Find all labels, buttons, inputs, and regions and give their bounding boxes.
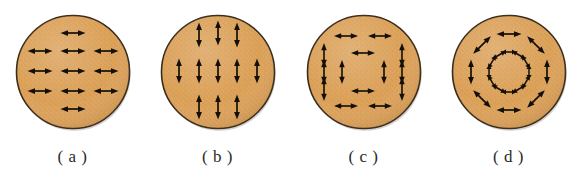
disc-d [450, 11, 568, 131]
disc-b-svg [159, 11, 277, 131]
disc-c [305, 11, 423, 131]
disc-a-svg [14, 11, 132, 131]
panel-b-label: ( b ) [145, 147, 290, 167]
disc-b [159, 11, 277, 131]
disc-a [14, 11, 132, 131]
panel-a: ( a ) [0, 0, 145, 186]
disc-d-svg [450, 11, 568, 131]
panel-b: ( b ) [145, 0, 290, 186]
panel-a-label: ( a ) [0, 147, 145, 167]
panel-c-label: ( c ) [291, 147, 436, 167]
figure-root: ( a ) ( b ) ( c ) ( d ) [0, 0, 581, 186]
panel-d-label: ( d ) [436, 147, 581, 167]
disc-c-svg [305, 11, 423, 131]
panel-d: ( d ) [436, 0, 581, 186]
panel-c: ( c ) [291, 0, 436, 186]
